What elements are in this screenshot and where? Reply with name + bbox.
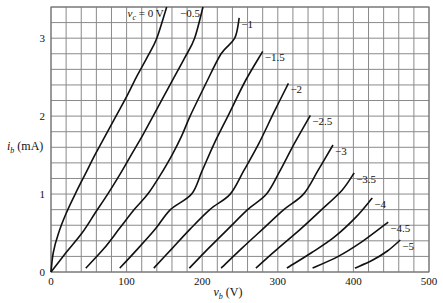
x-axis-label: vb (V) xyxy=(214,285,243,301)
curve-label: −4 xyxy=(374,198,386,210)
grid xyxy=(51,7,429,272)
curve-label: −3.5 xyxy=(356,173,376,185)
curve-vc-1 xyxy=(86,18,239,268)
curve-label: −1.5 xyxy=(265,51,285,63)
y-tick-label: 1 xyxy=(40,188,46,200)
curve-vc-4 xyxy=(287,198,372,268)
curve-label: −5 xyxy=(402,240,414,252)
curve-vc-5 xyxy=(355,240,400,268)
plate-characteristics-chart: vc = 0 V−0.5−1−1.5−2−2.5−3−3.5−4−4.5−5 0… xyxy=(0,0,443,303)
curve-labels: vc = 0 V−0.5−1−1.5−2−2.5−3−3.5−4−4.5−5 xyxy=(128,7,415,252)
x-tick-label: 200 xyxy=(194,275,211,287)
curve-label: −3 xyxy=(335,145,347,157)
curve-label: −2.5 xyxy=(312,115,332,127)
x-axis-ticks: 0100200300400500 xyxy=(48,275,438,287)
x-tick-label: 400 xyxy=(345,275,362,287)
y-axis-label: ib (mA) xyxy=(7,139,43,155)
y-axis-ticks: 0123 xyxy=(40,32,46,278)
curve-label: −2 xyxy=(290,83,302,95)
curve-label: vc = 0 V xyxy=(128,7,164,22)
curve-label: −0.5 xyxy=(180,7,200,19)
curve-label: −4.5 xyxy=(390,222,410,234)
plot-frame xyxy=(51,7,429,272)
x-tick-label: 500 xyxy=(421,275,438,287)
curve-label: −1 xyxy=(241,18,253,30)
curve-vc-0 xyxy=(51,7,167,272)
y-tick-label: 3 xyxy=(40,32,46,44)
y-tick-label: 2 xyxy=(40,110,46,122)
curve-vc-2_5 xyxy=(189,115,310,268)
x-tick-label: 100 xyxy=(118,275,135,287)
x-tick-label: 300 xyxy=(270,275,287,287)
curves xyxy=(51,7,400,272)
y-tick-label: 0 xyxy=(40,266,46,278)
x-tick-label: 0 xyxy=(48,275,54,287)
